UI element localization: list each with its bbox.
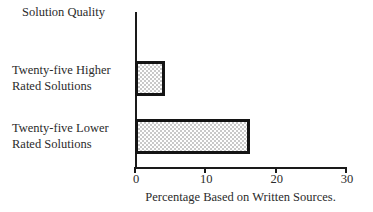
- category-label-line2: Rated Solutions: [12, 137, 109, 153]
- bar-higher-rated: [135, 61, 165, 96]
- x-axis-tick-label: 0: [116, 172, 156, 187]
- chart-axis-title: Solution Quality: [22, 5, 105, 20]
- x-axis-tick-label: 10: [186, 172, 226, 187]
- category-label-lower: Twenty-five Lower Rated Solutions: [12, 121, 109, 152]
- x-axis-line: [135, 167, 346, 169]
- x-axis-tick-label: 30: [327, 172, 367, 187]
- category-label-higher: Twenty-five Higher Rated Solutions: [12, 63, 111, 94]
- category-label-line2: Rated Solutions: [12, 79, 111, 95]
- category-label-line1: Twenty-five Higher: [12, 63, 111, 77]
- chart-caption: Percentage Based on Written Sources.: [0, 189, 373, 205]
- bar-lower-rated: [135, 119, 250, 154]
- bar-chart: Solution Quality Twenty-five Higher Rate…: [0, 0, 373, 212]
- x-axis-tick-label: 20: [257, 172, 297, 187]
- category-label-line1: Twenty-five Lower: [12, 121, 109, 135]
